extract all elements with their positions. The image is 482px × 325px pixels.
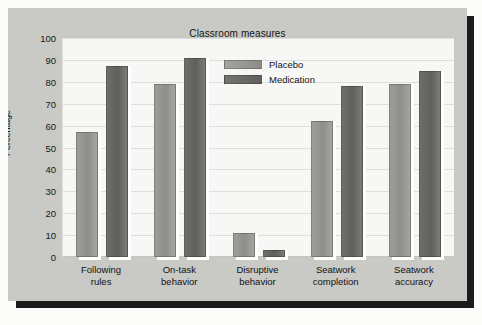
bar-medication: [341, 86, 363, 257]
bar-medication: [184, 58, 206, 257]
y-axis-tick-label: 80: [8, 76, 56, 87]
bar-placebo: [311, 121, 333, 257]
y-axis-tick-label: 20: [8, 208, 56, 219]
chart-panel: Classroom measures Percentage 0102030405…: [8, 8, 467, 301]
bar-body: [341, 86, 363, 257]
bar-body: [311, 121, 333, 257]
bar-body: [389, 84, 411, 257]
legend-swatch-medication: [224, 75, 262, 84]
legend-label-placebo: Placebo: [269, 59, 303, 70]
bar-placebo: [154, 84, 176, 257]
y-axis-tick-label: 0: [8, 252, 56, 263]
x-axis-category-label: Seatworkaccuracy: [362, 264, 466, 287]
bar-body: [184, 58, 206, 257]
y-axis-tick-label: 30: [8, 186, 56, 197]
bar-placebo: [389, 84, 411, 257]
y-axis-tick-label: 50: [8, 142, 56, 153]
y-axis-tick-label: 60: [8, 120, 56, 131]
legend-swatch-placebo: [224, 60, 262, 69]
legend-label-medication: Medication: [269, 74, 315, 85]
y-axis-tick-label: 100: [8, 33, 56, 44]
gridline: [63, 38, 454, 39]
bar-medication: [419, 71, 441, 257]
figure-container: Classroom measures Percentage 0102030405…: [0, 0, 482, 325]
y-axis-tick-label: 10: [8, 230, 56, 241]
bar-body: [233, 233, 255, 257]
chart-legend: Placebo Medication: [224, 58, 315, 88]
legend-item-medication: Medication: [224, 73, 315, 85]
y-axis-tick-label: 40: [8, 164, 56, 175]
bar-body: [154, 84, 176, 257]
x-axis-category-line: Seatwork: [362, 264, 466, 276]
y-axis-tick-label: 90: [8, 54, 56, 65]
bar-placebo: [233, 233, 255, 257]
bar-medication: [106, 66, 128, 257]
y-axis-tick-label: 70: [8, 98, 56, 109]
bar-body: [76, 132, 98, 257]
bar-placebo: [76, 132, 98, 257]
x-axis-category-line: accuracy: [362, 276, 466, 288]
legend-item-placebo: Placebo: [224, 58, 315, 70]
bar-body: [419, 71, 441, 257]
bar-body: [106, 66, 128, 257]
bar-body: [263, 250, 285, 257]
bar-medication: [263, 250, 285, 257]
